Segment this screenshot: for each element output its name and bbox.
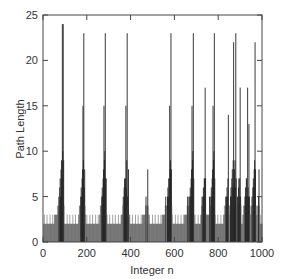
plot-frame (43, 15, 262, 242)
y-axis-label: Path Length (14, 99, 26, 158)
bars (44, 24, 263, 242)
x-tick-labels: 02004006008001000 (40, 247, 274, 259)
y-tick-label: 10 (26, 145, 38, 157)
path-length-chart: 02004006008001000 0510152025 Integer n P… (0, 0, 281, 279)
y-tick-label: 20 (26, 54, 38, 66)
x-tick-label: 400 (121, 247, 139, 259)
x-tick-label: 600 (165, 247, 183, 259)
axis-ticks (43, 15, 262, 242)
x-tick-label: 800 (209, 247, 227, 259)
y-tick-labels: 0510152025 (26, 9, 38, 248)
x-tick-label: 1000 (250, 247, 274, 259)
y-tick-label: 0 (32, 236, 38, 248)
x-tick-label: 200 (78, 247, 96, 259)
y-tick-label: 25 (26, 9, 38, 21)
x-tick-label: 0 (40, 247, 46, 259)
x-axis-label: Integer n (130, 264, 173, 276)
y-tick-label: 5 (32, 191, 38, 203)
y-tick-label: 15 (26, 100, 38, 112)
